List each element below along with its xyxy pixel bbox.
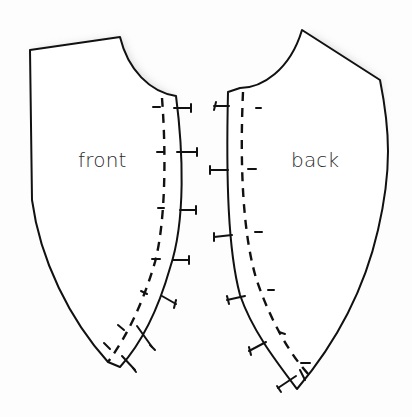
back-label: back xyxy=(291,148,339,172)
back-outline xyxy=(227,30,388,389)
pattern-diagram: front back xyxy=(0,0,412,417)
front-outline xyxy=(30,37,182,367)
front-label: front xyxy=(78,148,127,172)
back-piece xyxy=(210,30,388,392)
pattern-drawing xyxy=(0,0,412,417)
front-piece xyxy=(30,37,197,372)
